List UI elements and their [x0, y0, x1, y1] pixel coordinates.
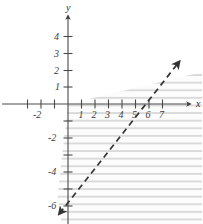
y-tick-label-neg2: -2 — [48, 133, 56, 143]
x-tick-label-neg2: -2 — [33, 110, 41, 120]
y-tick-label-neg4: -4 — [48, 167, 56, 177]
x-tick-label-5: 5 — [132, 110, 137, 120]
x-tick-label-3: 3 — [105, 110, 110, 120]
x-tick-label-2: 2 — [92, 110, 97, 120]
y-tick-label-neg6: -6 — [48, 201, 56, 211]
x-tick-label-4: 4 — [119, 110, 124, 120]
y-tick-label-4: 4 — [54, 32, 59, 42]
coordinate-plane-svg — [0, 0, 202, 224]
y-tick-label-1: 1 — [55, 82, 60, 92]
x-axis-label: x — [196, 99, 200, 109]
y-tick-label-2: 2 — [54, 66, 59, 76]
y-tick-label-3: 3 — [54, 49, 59, 59]
x-tick-label-7: 7 — [159, 110, 164, 120]
x-tick-label-1: 1 — [79, 110, 84, 120]
y-axis-label: y — [66, 3, 70, 13]
shaded-region — [58, 72, 203, 224]
graph-figure: y x -2 1 2 3 4 5 6 7 4 3 2 1 -2 -4 -6 — [0, 0, 202, 224]
x-tick-label-6: 6 — [146, 110, 151, 120]
